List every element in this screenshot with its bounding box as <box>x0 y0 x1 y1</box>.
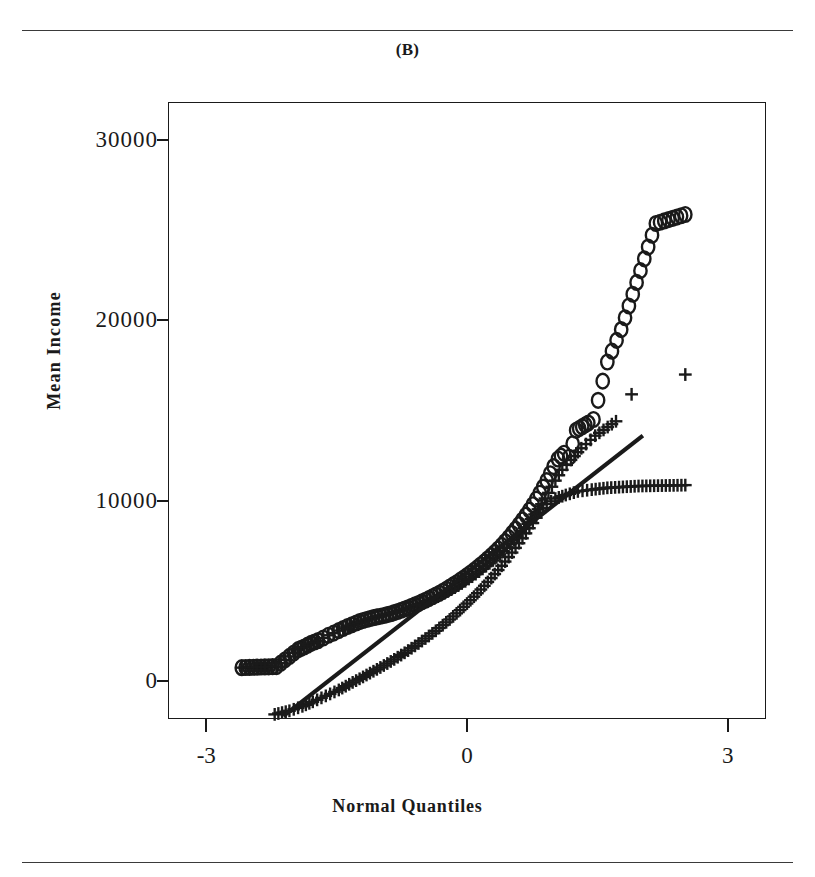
y-tick-mark <box>157 500 168 502</box>
y-tick-label: 20000 <box>96 308 159 331</box>
plot-canvas <box>169 103 765 718</box>
x-tick-label: -3 <box>176 744 236 767</box>
x-tick-mark <box>205 719 207 732</box>
y-tick-mark <box>157 139 168 141</box>
y-tick-label: 30000 <box>96 128 159 151</box>
x-tick-label: 3 <box>698 744 758 767</box>
data-point-circle <box>597 374 609 389</box>
bottom-divider-rule <box>22 862 793 863</box>
y-axis-title: Mean Income <box>44 231 65 471</box>
x-axis-tick-labels: -303 <box>0 744 815 784</box>
figure-root: (B) 0100002000030000 -303 Mean Income No… <box>0 0 815 877</box>
x-tick-label: 0 <box>437 744 497 767</box>
data-point-circle <box>592 393 604 408</box>
reference-line <box>283 436 643 717</box>
x-axis-title: Normal Quantiles <box>0 796 815 817</box>
y-tick-label: 10000 <box>96 489 159 512</box>
y-tick-mark <box>157 319 168 321</box>
data-point-plus <box>679 368 692 381</box>
data-point-plus <box>625 388 638 401</box>
plot-frame <box>168 102 766 719</box>
y-tick-mark <box>157 680 168 682</box>
x-tick-mark <box>727 719 729 732</box>
x-tick-mark <box>466 719 468 732</box>
